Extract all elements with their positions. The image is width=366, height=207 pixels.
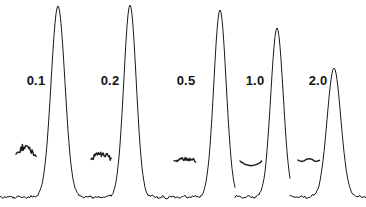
concentration-label: 2.0: [309, 74, 328, 87]
concentration-label: 0.2: [101, 74, 120, 87]
concentration-label: 1.0: [246, 74, 265, 87]
noise-blip: [16, 144, 36, 156]
noise-blip: [298, 159, 320, 162]
noise-blip: [240, 161, 262, 166]
noise-blip: [91, 152, 111, 160]
chromatogram-figure: 0.10.20.51.02.0: [0, 0, 366, 207]
peak-trace: [290, 68, 366, 198]
peak-trace: [0, 6, 93, 199]
noise-blip: [174, 158, 196, 163]
trace-group: [0, 5, 366, 199]
peak-trace: [93, 5, 163, 199]
noise-blip-group: [16, 144, 320, 165]
signal-trace-svg: [0, 0, 366, 207]
concentration-label: 0.5: [177, 74, 196, 87]
peak-trace: [235, 28, 290, 198]
concentration-label: 0.1: [27, 74, 46, 87]
peak-trace: [163, 10, 235, 199]
